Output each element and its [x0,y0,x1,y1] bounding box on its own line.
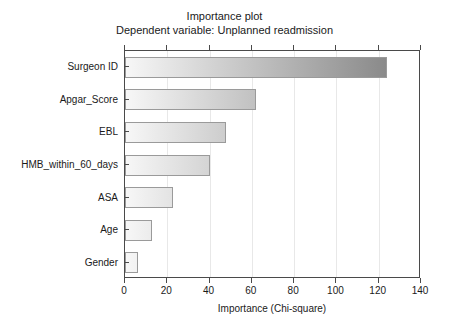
y-tick-mark [124,262,129,263]
x-tick-mark-top [378,45,379,50]
bar [125,57,387,78]
x-tick-mark-top [124,45,125,50]
y-tick-mark [124,197,129,198]
y-tick-label: Gender [0,256,118,267]
y-tick-label: EBL [0,126,118,137]
x-tick-mark-top [251,45,252,50]
y-tick-label: ASA [0,191,118,202]
x-tick-mark [335,278,336,283]
x-tick-mark-top [209,45,210,50]
chart-title-block: Importance plot Dependent variable: Unpl… [0,9,449,37]
x-tick-label: 100 [320,285,350,296]
x-tick-mark [378,278,379,283]
plot-area [124,50,420,278]
x-tick-mark [209,278,210,283]
x-tick-mark-top [420,45,421,50]
y-tick-mark [124,131,129,132]
chart-subtitle: Dependent variable: Unplanned readmissio… [0,23,449,37]
bar [125,89,256,110]
x-tick-label: 140 [405,285,435,296]
x-tick-label: 60 [236,285,266,296]
importance-plot-figure: Importance plot Dependent variable: Unpl… [0,0,449,329]
x-tick-label: 120 [363,285,393,296]
x-tick-mark [420,278,421,283]
y-tick-mark [124,229,129,230]
y-tick-label: HMB_within_60_days [0,159,118,170]
y-tick-mark [124,99,129,100]
bar [125,155,210,176]
x-tick-mark [293,278,294,283]
x-tick-mark [124,278,125,283]
y-tick-label: Apgar_Score [0,93,118,104]
x-tick-label: 40 [194,285,224,296]
y-tick-label: Age [0,224,118,235]
x-tick-label: 80 [278,285,308,296]
chart-title: Importance plot [0,9,449,23]
x-tick-mark-top [293,45,294,50]
x-tick-mark [166,278,167,283]
bar [125,187,173,208]
x-axis-title: Importance (Chi-square) [124,303,420,314]
x-tick-mark-top [335,45,336,50]
x-tick-mark [251,278,252,283]
bar-group [125,51,419,277]
y-tick-mark [124,66,129,67]
y-tick-mark [124,164,129,165]
bar [125,252,138,273]
bar [125,220,152,241]
x-tick-mark-top [166,45,167,50]
x-tick-label: 0 [109,285,139,296]
bar [125,122,226,143]
x-tick-label: 20 [151,285,181,296]
y-axis-label-group: Surgeon IDApgar_ScoreEBLHMB_within_60_da… [0,50,118,278]
y-tick-label: Surgeon ID [0,61,118,72]
